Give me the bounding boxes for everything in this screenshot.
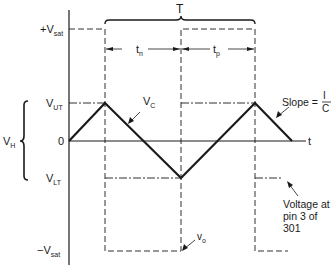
tn-label: tn: [136, 44, 143, 57]
pin-note-line-3: 301: [283, 222, 330, 234]
slope-denominator: C: [322, 104, 329, 114]
slope-numerator: I: [323, 91, 326, 101]
pin-note-line-1: Voltage at: [283, 198, 330, 210]
hysteresis-brace: [20, 101, 28, 180]
zero-label: 0: [58, 136, 64, 147]
slope-arrow-icon: [276, 111, 282, 118]
vc-arrow-icon: [128, 117, 134, 124]
tn-arrow-left-icon: [106, 47, 113, 51]
vo-arrow-icon: [182, 244, 188, 251]
tp-arrow-left-icon: [182, 47, 189, 51]
vo-label: vo: [197, 232, 206, 244]
slope-text: Slope =: [282, 97, 318, 108]
vlt-label: VLT: [46, 173, 61, 186]
tp-label: tp: [213, 44, 220, 57]
pin-note: Voltage at pin 3 of 301: [283, 198, 330, 234]
tp-arrow-right-icon: [247, 47, 254, 51]
vh-label: VH: [3, 136, 15, 149]
neg-sat-label: −Vsat: [37, 245, 60, 258]
vut-label: VUT: [46, 98, 63, 111]
time-axis-label: t: [308, 136, 311, 147]
pin-note-line-2: pin 3 of: [283, 210, 330, 222]
pos-sat-label: +Vsat: [40, 24, 63, 37]
period-label: T: [176, 3, 183, 15]
vc-label: VC: [143, 96, 155, 109]
period-brace: [105, 16, 255, 24]
tn-arrow-right-icon: [173, 47, 180, 51]
pin-note-arrow-icon: [287, 181, 293, 188]
output-square-wave: [69, 29, 288, 251]
